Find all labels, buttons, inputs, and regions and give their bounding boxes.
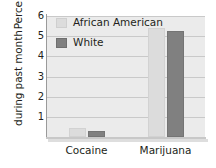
legend-swatch: [56, 38, 67, 48]
y-axis-tick-label: 4: [30, 51, 44, 61]
legend: African AmericanWhite: [56, 17, 163, 48]
y-axis-tick-labels: 123456: [30, 0, 44, 168]
y-axis-tick-label: 3: [30, 72, 44, 82]
y-axis-tick-label: 1: [30, 112, 44, 122]
legend-swatch: [56, 18, 67, 28]
legend-entry: African American: [56, 17, 163, 28]
x-axis-tick-label: Cocaine: [66, 144, 108, 156]
bar: [167, 31, 184, 137]
y-axis-tick-label: 2: [30, 92, 44, 102]
y-axis-title-line-2: during past month: [13, 30, 24, 126]
bar: [69, 128, 86, 137]
x-axis-tick-labels: CocaineMarijuana: [47, 144, 205, 164]
x-axis-baseline-shadow: [48, 139, 208, 142]
y-axis-title-line-1: Percentage using: [13, 0, 24, 29]
legend-entry: White: [56, 37, 163, 48]
x-axis-tick-label: Marijuana: [140, 144, 192, 156]
bar-chart-figure: during past month Percentage using 12345…: [0, 0, 216, 168]
x-axis-baseline: [46, 137, 206, 139]
y-axis-tick-label: 6: [30, 11, 44, 21]
y-axis-title: during past month Percentage using: [3, 0, 33, 93]
legend-label: White: [73, 37, 104, 48]
bar-group: [69, 128, 105, 137]
legend-label: African American: [73, 17, 163, 28]
y-axis-tick-label: 5: [30, 31, 44, 41]
